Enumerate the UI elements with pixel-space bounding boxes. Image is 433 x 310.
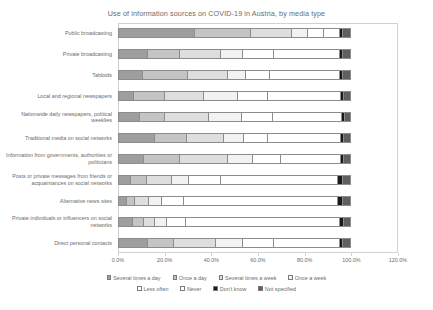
bar-segment [155, 217, 167, 227]
bar-segment [343, 238, 351, 248]
bar-segment [134, 91, 164, 101]
legend-item[interactable]: Several times a week [219, 275, 277, 281]
stacked-bar [118, 238, 351, 248]
bar-segment [118, 154, 144, 164]
bar-segment [243, 238, 275, 248]
legend-item[interactable]: Less often [137, 286, 168, 292]
legend-swatch-icon [258, 286, 263, 291]
legend-swatch-icon [173, 275, 178, 280]
chart-title: Use of information sources on COVID-19 i… [0, 9, 433, 18]
legend-item[interactable]: Several times a day [107, 275, 161, 281]
bar-segment [281, 154, 341, 164]
bar-segment [345, 112, 351, 122]
bar-segment [155, 133, 187, 143]
category-label: Private broadcasting [0, 51, 112, 57]
x-axis-tick-label: 80.0% [297, 257, 312, 263]
legend-swatch-icon [107, 275, 112, 280]
bar-segment [174, 238, 216, 248]
x-axis-tick-label: 20.0% [157, 257, 172, 263]
bar-segment [127, 196, 135, 206]
bar-segment [344, 91, 351, 101]
bar-segment [140, 112, 165, 122]
bar-segment [228, 70, 247, 80]
bar-segment [118, 238, 148, 248]
category-label: Local and regional newspapers [0, 93, 112, 99]
legend-swatch-icon [213, 286, 218, 291]
bar-segment [344, 217, 351, 227]
legend-label: Don't know [220, 286, 247, 292]
stacked-bar [118, 133, 351, 143]
bar-segment [343, 196, 351, 206]
category-label: Direct personal contacts [0, 240, 112, 246]
bar-segment [187, 133, 224, 143]
bar-segment [118, 28, 195, 38]
x-axis-tick-mark [118, 253, 119, 256]
legend-label: Not specified [265, 286, 296, 292]
category-label: Public broadcasting [0, 30, 112, 36]
chart-legend: Several times a dayOnce a daySeveral tim… [0, 272, 433, 294]
bar-segment [308, 28, 324, 38]
bar-segment [118, 133, 155, 143]
bar-segment [270, 70, 340, 80]
y-axis-category-labels: Public broadcastingPrivate broadcastingT… [0, 23, 116, 253]
legend-swatch-icon [219, 275, 224, 280]
bar-segment [343, 175, 351, 185]
x-axis-tick-label: 0.0% [112, 257, 124, 263]
bar-segment [209, 112, 242, 122]
legend-item[interactable]: Don't know [213, 286, 246, 292]
legend-item[interactable]: Not specified [258, 286, 296, 292]
legend-item[interactable]: Once a week [288, 275, 326, 281]
stacked-bar [118, 196, 351, 206]
bar-segment [253, 154, 281, 164]
legend-label: Several times a day [113, 275, 160, 281]
chart-container: Use of information sources on COVID-19 i… [0, 0, 433, 310]
bar-segment [344, 154, 351, 164]
x-axis-tick-label: 120.0% [389, 257, 407, 263]
legend-item[interactable]: Never [180, 286, 201, 292]
bar-segment [118, 70, 143, 80]
bar-segment [144, 154, 180, 164]
bar-segment [251, 28, 292, 38]
x-axis-tick-mark [258, 253, 259, 256]
bar-segment [167, 217, 186, 227]
bar-segment [180, 154, 228, 164]
bar-segment [118, 49, 148, 59]
legend-swatch-icon [180, 286, 185, 291]
legend-label: Never [187, 286, 201, 292]
x-axis-tick-label: 100.0% [342, 257, 360, 263]
stacked-bar [118, 217, 351, 227]
stacked-bar [118, 154, 351, 164]
category-label: Tabloids [0, 72, 112, 78]
bar-segment [204, 91, 238, 101]
bar-segment [148, 238, 174, 248]
x-axis-tick-label: 40.0% [204, 257, 219, 263]
category-label: Nationwide daily newspapers, political w… [0, 111, 112, 124]
category-label: Private individuals or influencers on so… [0, 215, 112, 228]
legend-item[interactable]: Once a day [173, 275, 207, 281]
bar-segment [133, 217, 144, 227]
stacked-bars-layer [118, 23, 398, 253]
category-label: Information from governments, authoritie… [0, 152, 112, 165]
bar-segment [165, 91, 205, 101]
bar-segment [343, 70, 351, 80]
bar-segment [143, 70, 189, 80]
bar-segment [147, 175, 172, 185]
stacked-bar [118, 91, 351, 101]
bar-segment [216, 238, 243, 248]
category-label: Posts or private messages from friends o… [0, 173, 112, 186]
bar-segment [118, 217, 133, 227]
bar-segment [118, 196, 127, 206]
x-axis-tick-label: 60.0% [250, 257, 265, 263]
stacked-bar [118, 175, 351, 185]
bar-segment [118, 91, 134, 101]
category-label: Alternative news sites [0, 198, 112, 204]
bar-segment [165, 112, 209, 122]
bar-segment [188, 70, 228, 80]
bar-segment [238, 91, 268, 101]
bar-segment [184, 196, 338, 206]
bar-segment [144, 217, 156, 227]
bar-segment [244, 133, 269, 143]
bar-segment [268, 91, 340, 101]
bar-segment [243, 49, 275, 59]
legend-row: Less oftenNeverDon't knowNot specified [0, 283, 433, 294]
